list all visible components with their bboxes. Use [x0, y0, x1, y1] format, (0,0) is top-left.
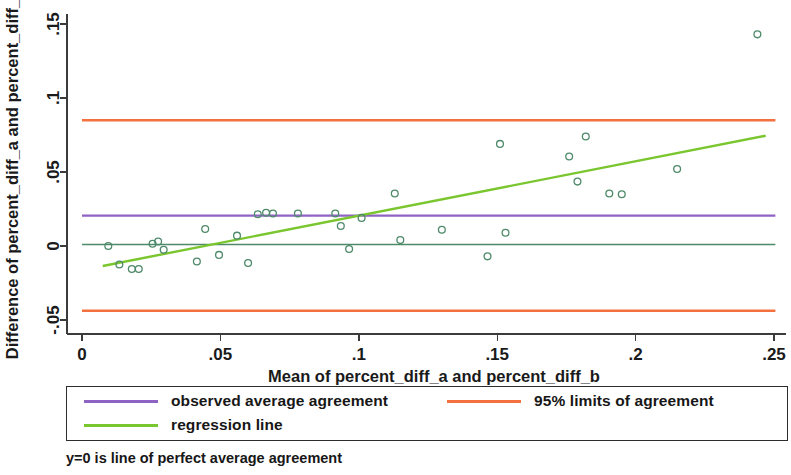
legend-entry-regression-line[interactable]: regression line [84, 416, 283, 434]
y-tick-label: 0 [44, 241, 63, 250]
x-tick-label: .05 [209, 345, 233, 364]
x-tick-label: 0 [77, 345, 86, 364]
data-point [216, 251, 223, 258]
y-tick-label: .15 [44, 12, 63, 36]
legend-swatch-limits-of-agreement [447, 400, 521, 403]
legend-entry-observed-average[interactable]: observed average agreement [84, 392, 388, 410]
data-point [606, 190, 613, 197]
data-point [105, 243, 112, 250]
data-point [566, 153, 573, 160]
data-point [234, 232, 241, 239]
y-tick-label: .1 [44, 91, 63, 105]
data-point [754, 31, 761, 38]
data-point [202, 226, 209, 233]
data-point [502, 229, 509, 236]
data-point [397, 237, 404, 244]
x-tick-label: .25 [762, 345, 786, 364]
legend-label-limits-of-agreement: 95% limits of agreement [534, 392, 714, 410]
data-point [346, 246, 353, 253]
data-point [582, 133, 589, 140]
x-tick-label: .15 [485, 345, 509, 364]
data-point [135, 266, 142, 273]
data-point [674, 166, 681, 173]
legend-label-regression-line: regression line [171, 416, 283, 434]
y-tick-label: -.05 [44, 305, 63, 334]
data-point [160, 246, 167, 253]
y-tick-label: .05 [44, 160, 63, 184]
data-point [245, 260, 252, 267]
legend-swatch-observed-average [84, 400, 158, 403]
data-point [574, 178, 581, 185]
data-point [337, 223, 344, 230]
legend-swatch-regression-line [84, 424, 158, 427]
legend-entry-limits-of-agreement[interactable]: 95% limits of agreement [447, 392, 714, 410]
data-point [391, 190, 398, 197]
data-point [497, 140, 504, 147]
data-point [438, 226, 445, 233]
y-axis-title: Difference of percent_diff_a and percent… [3, 0, 21, 359]
x-axis-title: Mean of percent_diff_a and percent_diff_… [268, 367, 600, 385]
data-point [128, 266, 135, 273]
footnote-text: y=0 is line of perfect average agreement [66, 450, 342, 466]
data-point [484, 253, 491, 260]
regression-line [103, 136, 766, 266]
bland-altman-figure: 0.05.1.15.2.25-.050.05.1.15Mean of perce… [0, 0, 791, 475]
data-point [193, 258, 200, 265]
legend-label-observed-average: observed average agreement [171, 392, 388, 410]
data-point [618, 191, 625, 198]
x-tick-label: .1 [352, 345, 366, 364]
x-tick-label: .2 [629, 345, 643, 364]
